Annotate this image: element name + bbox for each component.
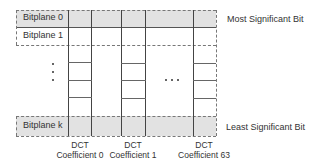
column-0-cell-line: [68, 97, 92, 98]
bitplane-0-label: Bitplane 0: [23, 12, 63, 22]
bottom-dashed-edge: [16, 136, 216, 137]
column-1-left: [121, 10, 122, 136]
column-1-label-line1: DCT: [103, 140, 163, 150]
top-dashed-edge: [16, 10, 216, 11]
vertical-ellipsis-dot: [52, 63, 54, 65]
row1-bottom-dashed: [16, 45, 216, 46]
column-0-right: [91, 10, 92, 136]
msb-label: Most Significant Bit: [227, 14, 304, 24]
column-1-label-line2: Coefficient 1: [103, 150, 163, 160]
column-0-label-line1: DCT: [50, 140, 110, 150]
column-0-label: DCT Coefficient 0: [50, 140, 110, 160]
bottom-row-top-dashed: [16, 116, 216, 117]
bottom-left-dashed: [16, 116, 17, 136]
column-63-left: [193, 10, 194, 136]
lsb-label: Least Significant Bit: [226, 122, 305, 132]
column-63-label-line1: DCT: [172, 140, 236, 150]
row0-separator: [16, 27, 216, 28]
column-1-label: DCT Coefficient 1: [103, 140, 163, 160]
column-63-label: DCT Coefficient 63: [172, 140, 236, 160]
column-63-cell-line: [193, 98, 216, 99]
horizontal-ellipsis-dot: [165, 79, 167, 81]
top-left-dashed: [16, 10, 17, 45]
column-1-cell-line: [121, 63, 146, 64]
vertical-ellipsis-dot: [52, 71, 54, 73]
column-1-cell-line: [121, 98, 146, 99]
bitplane-1-label: Bitplane 1: [23, 30, 63, 40]
column-1-cell-line: [121, 80, 146, 81]
horizontal-ellipsis-dot: [171, 79, 173, 81]
column-0-cell-line: [68, 80, 92, 81]
horizontal-ellipsis-dot: [177, 79, 179, 81]
column-0-left: [68, 10, 69, 136]
column-63-cell-line: [193, 80, 216, 81]
column-1-right: [145, 10, 146, 136]
vertical-ellipsis-dot: [52, 79, 54, 81]
bitplane-k-label: Bitplane k: [23, 120, 63, 130]
column-0-cell-line: [68, 62, 92, 63]
column-63-label-line2: Coefficient 63: [172, 150, 236, 160]
column-63-cell-line: [193, 63, 216, 64]
right-dashed: [216, 10, 217, 136]
column-0-label-line2: Coefficient 0: [50, 150, 110, 160]
